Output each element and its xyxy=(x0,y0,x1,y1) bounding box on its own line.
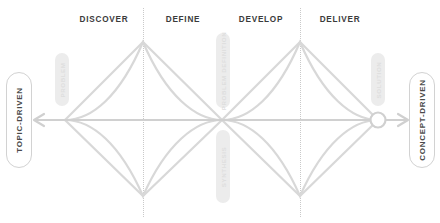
endcap-topic-driven: TOPIC-DRIVEN xyxy=(6,72,32,168)
pill-solution: SOLUTION xyxy=(371,53,385,106)
diamond1-edge-bottom-right xyxy=(143,120,222,196)
pill-synthesis-label: SYNTHESIS xyxy=(220,146,227,186)
diamond1-upper-curve xyxy=(65,42,222,120)
endcap-topic-driven-label: TOPIC-DRIVEN xyxy=(15,87,24,153)
pill-problem-definition-label: PROBLEM DEFINITION xyxy=(220,31,227,110)
diamond1-lower-curve xyxy=(65,120,222,196)
diamond2-edge-bottom-right xyxy=(300,120,378,196)
solution-node-icon xyxy=(371,113,386,128)
pill-problem-definition: PROBLEM DEFINITION xyxy=(216,33,230,108)
diamond2-edge-top-right xyxy=(300,42,378,120)
diamond2-lower-curve xyxy=(222,120,378,196)
diamond2-edge-top-left xyxy=(222,42,300,120)
diamond1-edge-top-left xyxy=(65,42,143,120)
diamond1-edge-top-right xyxy=(143,42,222,120)
pill-synthesis: SYNTHESIS xyxy=(216,130,230,203)
endcap-concept-driven: CONCEPT-DRIVEN xyxy=(409,72,435,168)
diamond1-edge-bottom-left xyxy=(65,120,143,196)
diamond2-upper-curve xyxy=(222,42,378,120)
pill-problem-label: PROBLEM xyxy=(59,62,66,97)
pill-solution-label: SOLUTION xyxy=(375,61,382,98)
pill-problem: PROBLEM xyxy=(55,53,69,106)
diamond2-edge-bottom-left xyxy=(222,120,300,196)
endcap-concept-driven-label: CONCEPT-DRIVEN xyxy=(418,79,427,160)
double-diamond-diagram: DISCOVER DEFINE DEVELOP DELIVER xyxy=(0,0,440,223)
